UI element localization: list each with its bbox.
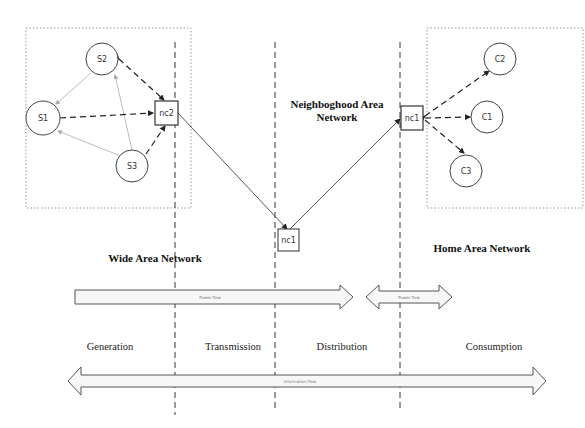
nan-title-line2: Network [317, 111, 359, 123]
power-flow-main-label: Power flow [199, 295, 221, 300]
node-c3: C3 [450, 155, 482, 187]
edge-nc1-nc1home [290, 119, 400, 229]
wan-title: Wide Area Network [108, 252, 203, 264]
node-s3-label: S3 [127, 162, 137, 171]
node-nc1-distribution-label: nc1 [281, 236, 296, 245]
edge-s3-nc2 [146, 126, 165, 154]
edge-nc2-nc1 [178, 113, 287, 229]
stage-consumption: Consumption [466, 341, 523, 352]
node-nc1-distribution: nc1 [278, 229, 299, 251]
node-nc2: nc2 [155, 101, 178, 125]
node-nc1-home: nc1 [401, 106, 423, 130]
node-s1: S1 [26, 101, 60, 135]
edge-s3-s1 [58, 131, 118, 155]
power-flow-arrow-home: Power flow [366, 285, 452, 309]
nan-title-line1: Neighboghood Area [290, 98, 384, 110]
information-flow-label: Information flow [284, 379, 317, 384]
node-nc2-label: nc2 [159, 109, 174, 118]
node-c3-label: C3 [461, 167, 472, 176]
edge-s2-s1 [56, 73, 91, 104]
stage-distribution: Distribution [317, 341, 369, 352]
node-c2-label: C2 [495, 55, 506, 64]
edge-s1-nc2 [60, 113, 153, 118]
edge-nc1home-c3 [425, 120, 464, 153]
edge-s3-s2 [115, 75, 132, 150]
han-title: Home Area Network [434, 242, 532, 254]
stage-generation: Generation [87, 341, 134, 352]
edge-s2-nc2 [119, 59, 164, 100]
node-c1: C1 [471, 101, 503, 133]
information-flow-arrow: Information flow [68, 367, 546, 395]
node-s2-label: S2 [97, 55, 107, 64]
power-flow-home-label: Power flow [398, 295, 420, 300]
node-c2: C2 [484, 43, 516, 75]
smart-grid-diagram: S2 S1 S3 nc2 nc1 nc1 C2 C1 C3 Wide Area … [0, 0, 585, 428]
edge-nc1home-c1 [425, 117, 470, 118]
node-c1-label: C1 [482, 113, 493, 122]
node-s1-label: S1 [38, 114, 48, 123]
node-nc1-home-label: nc1 [405, 114, 420, 123]
node-s3: S3 [116, 150, 148, 182]
node-s2: S2 [86, 43, 118, 75]
stage-transmission: Transmission [205, 341, 262, 352]
power-flow-arrow-main: Power flow [75, 285, 353, 309]
